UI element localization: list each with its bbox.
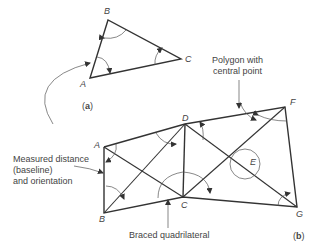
point-label-a-b: A bbox=[94, 140, 100, 150]
network-angle-arcs bbox=[106, 102, 290, 206]
point-label-b-a: B bbox=[104, 6, 110, 16]
point-label-a-a: A bbox=[80, 79, 86, 89]
figure-b-label: (b) bbox=[293, 231, 305, 241]
figure-a-label: (a) bbox=[82, 101, 93, 111]
polygon-annotation-line1: Polygon with bbox=[212, 55, 263, 66]
point-label-c-b: C bbox=[181, 200, 188, 210]
baseline-annotation: Measured distance (baseline) and orienta… bbox=[13, 154, 89, 187]
polygon-annotation-line2: central point bbox=[212, 66, 263, 77]
paren-close: ) bbox=[90, 101, 93, 111]
point-label-b-b: B bbox=[99, 214, 105, 224]
triangle-abc bbox=[90, 20, 181, 78]
point-label-d: D bbox=[182, 113, 189, 123]
baseline-annotation-line3: and orientation bbox=[13, 176, 89, 187]
point-label-c-a: C bbox=[185, 54, 192, 64]
baseline-annotation-line1: Measured distance bbox=[13, 154, 89, 165]
diagram-drawing bbox=[0, 0, 313, 251]
point-label-g: G bbox=[296, 209, 303, 219]
baseline-annotation-line2: (baseline) bbox=[13, 165, 89, 176]
triangulation-diagram: B A C (a) A B C D E F G (b) Polygon with… bbox=[0, 0, 313, 251]
point-label-f: F bbox=[290, 97, 296, 107]
braced-annotation: Braced quadrilateral bbox=[129, 230, 210, 241]
baseline-curve-arrow bbox=[45, 63, 90, 124]
point-label-e: E bbox=[250, 157, 256, 167]
polygon-annotation: Polygon with central point bbox=[212, 55, 263, 77]
paren-close: ) bbox=[302, 231, 305, 241]
triangle-angle-arcs bbox=[97, 30, 162, 73]
